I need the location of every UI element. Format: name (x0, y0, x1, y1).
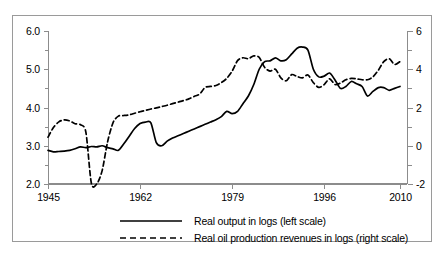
legend-item-real-output: Real output in logs (left scale) (118, 214, 326, 228)
x-tick-label: 1962 (121, 191, 161, 203)
legend-item-oil-revenues: Real oil production revenues in logs (ri… (118, 231, 408, 245)
chart-figure: 194519621979199620102.03.04.05.06.0-2024… (0, 0, 444, 258)
legend-key-dashed (118, 233, 184, 243)
y-tick-label-right: 0 (416, 140, 440, 152)
y-tick-label-right: -2 (416, 178, 440, 190)
legend-label-oil-revenues: Real oil production revenues in logs (ri… (194, 232, 408, 244)
x-tick-label: 1979 (213, 191, 253, 203)
y-tick-label-left: 5.0 (10, 63, 40, 75)
series-path-real-output (48, 47, 400, 152)
axes-layer (44, 31, 413, 189)
y-tick-label-left: 2.0 (10, 178, 40, 190)
series-path-oil-revenues (48, 56, 400, 187)
legend-key-solid (118, 216, 184, 226)
x-tick-label: 1945 (29, 191, 69, 203)
y-tick-label-left: 3.0 (10, 140, 40, 152)
x-tick-label: 1996 (305, 191, 345, 203)
y-tick-label-right: 6 (416, 25, 440, 37)
legend-label-real-output: Real output in logs (left scale) (194, 215, 326, 227)
y-tick-label-left: 6.0 (10, 25, 40, 37)
y-tick-label-right: 4 (416, 63, 440, 75)
y-tick-label-right: 2 (416, 102, 440, 114)
y-tick-label-left: 4.0 (10, 102, 40, 114)
series-layer (48, 47, 400, 187)
x-tick-label: 2010 (381, 191, 421, 203)
